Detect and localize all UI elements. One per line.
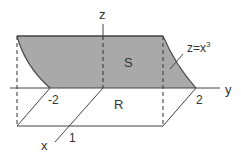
curve-equation-base: z=x [187,41,206,55]
z-axis-label: z [99,7,106,22]
tick-label-1: 1 [69,131,76,145]
tick-label-2: 2 [196,93,203,107]
curve-equation-exponent: 3 [206,40,211,49]
surface-s-shaded-region [17,36,196,88]
base-right-diagonal [163,88,196,126]
curve-equation-label: z=x3 [187,40,211,55]
base-left-diagonal [17,88,50,126]
x-axis [55,88,103,142]
surface-label-s: S [124,55,133,70]
tick-label-neg-2: -2 [48,93,59,107]
x-axis-label: x [41,138,48,153]
base-label-r: R [114,97,123,112]
region-diagram: z y x -2 2 1 S R z=x3 [0,0,241,158]
y-axis-label: y [225,82,232,97]
